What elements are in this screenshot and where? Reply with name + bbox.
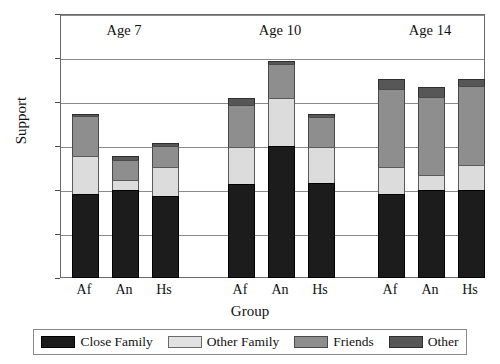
x-tick-label-an-4: An [260, 282, 300, 298]
bar-segment-close-family [458, 190, 485, 278]
bar-an-1 [112, 156, 139, 277]
panel-label-age-7: Age 7 [74, 22, 174, 39]
bar-segment-friends [72, 116, 99, 156]
x-axis-title: Group [0, 303, 500, 320]
panel-label-age-14: Age 14 [380, 22, 480, 39]
legend-label: Other Family [207, 334, 279, 350]
stacked-bar-chart: 051015202530 Support Age 7Age 10Age 14 A… [0, 0, 500, 364]
bar-segment-other-family [268, 98, 295, 147]
x-tick-label-hs-5: Hs [300, 282, 340, 298]
bar-segment-other-family [308, 147, 335, 184]
panel-label-age-10: Age 10 [230, 22, 330, 39]
gridline [61, 15, 484, 16]
bar-segment-friends [378, 89, 405, 168]
x-tick-label-an-7: An [410, 282, 450, 298]
legend-item-friends: Friends [294, 334, 374, 350]
bar-segment-close-family [268, 146, 295, 278]
legend-swatch-icon [41, 336, 75, 348]
bar-segment-close-family [308, 183, 335, 278]
bar-segment-other-family [378, 167, 405, 195]
legend-label: Friends [333, 334, 374, 350]
plot-area [60, 14, 485, 278]
bar-segment-friends [112, 160, 139, 180]
bar-segment-close-family [72, 194, 99, 278]
bar-an-4 [268, 61, 295, 277]
legend-item-other: Other [389, 334, 459, 350]
x-tick-label-af-3: Af [220, 282, 260, 298]
legend-item-other-family: Other Family [168, 334, 279, 350]
bar-segment-close-family [152, 196, 179, 278]
bar-segment-other-family [418, 175, 445, 191]
bar-segment-close-family [228, 184, 255, 278]
bar-segment-close-family [418, 190, 445, 278]
bar-hs-8 [458, 79, 485, 277]
bar-af-6 [378, 79, 405, 277]
x-tick-label-hs-2: Hs [144, 282, 184, 298]
bar-segment-other-family [458, 165, 485, 191]
legend-label: Close Family [80, 334, 152, 350]
bar-segment-close-family [112, 190, 139, 278]
bar-segment-friends [228, 105, 255, 148]
bar-hs-5 [308, 114, 335, 277]
bar-segment-friends [268, 64, 295, 98]
x-tick-label-an-1: An [104, 282, 144, 298]
y-tick-mark [55, 278, 60, 279]
bar-segment-other-family [152, 167, 179, 197]
bar-segment-close-family [378, 194, 405, 278]
legend-swatch-icon [389, 336, 423, 348]
bar-hs-2 [152, 143, 179, 277]
bar-af-3 [228, 98, 255, 277]
legend-swatch-icon [294, 336, 328, 348]
bar-segment-friends [418, 97, 445, 176]
x-tick-label-af-6: Af [370, 282, 410, 298]
legend-swatch-icon [168, 336, 202, 348]
x-tick-label-hs-8: Hs [450, 282, 490, 298]
legend-item-close-family: Close Family [41, 334, 152, 350]
gridline [61, 59, 484, 60]
bar-segment-friends [152, 146, 179, 168]
legend-label: Other [428, 334, 459, 350]
chart-legend: Close FamilyOther FamilyFriendsOther [33, 329, 467, 355]
bar-af-0 [72, 114, 99, 277]
bar-segment-friends [458, 86, 485, 165]
bar-segment-friends [308, 117, 335, 148]
bar-an-7 [418, 87, 445, 277]
x-tick-label-af-0: Af [64, 282, 104, 298]
bar-segment-other-family [72, 156, 99, 195]
y-axis-title: Support [13, 66, 30, 176]
bar-segment-other-family [228, 147, 255, 185]
